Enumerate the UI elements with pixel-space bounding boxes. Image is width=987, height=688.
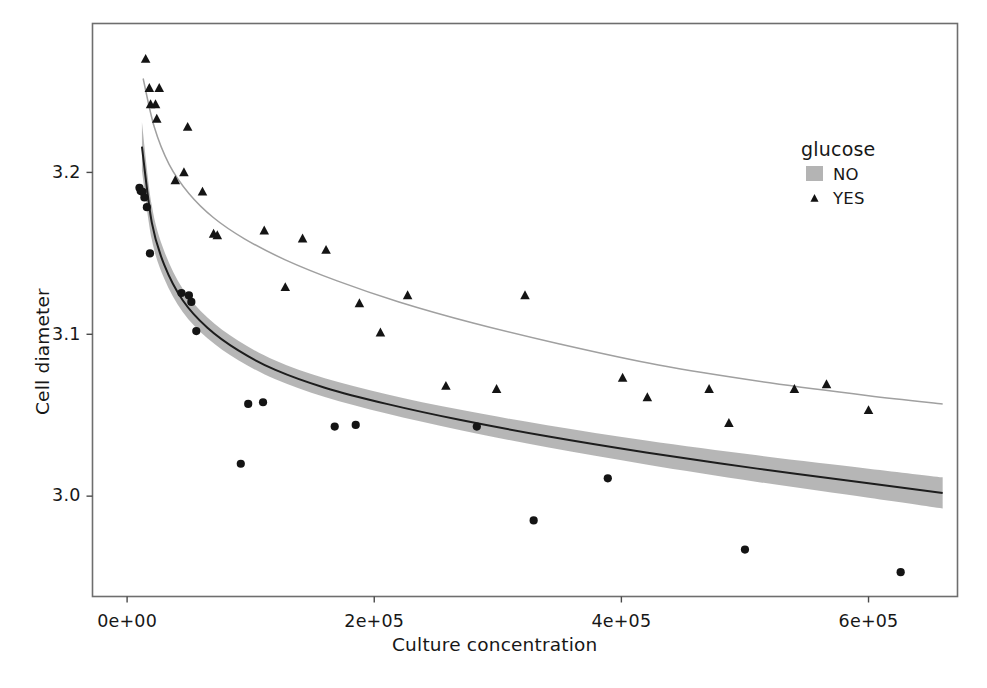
y-tick-label-3-0: 3.0 xyxy=(52,487,80,505)
data-point-no xyxy=(143,203,151,211)
data-point-no xyxy=(897,568,905,576)
figure-container: 0e+00 2e+05 4e+05 6e+05 3.2 3.1 3.0 Cult… xyxy=(0,0,987,688)
legend-title: glucose xyxy=(801,140,875,159)
data-point-no xyxy=(187,298,195,306)
y-axis-title: Cell diameter xyxy=(34,288,53,415)
legend-key-box-no xyxy=(806,166,823,181)
legend-item-label-no: NO xyxy=(833,167,859,184)
data-point-no xyxy=(259,398,267,406)
data-point-no xyxy=(237,460,245,468)
data-point-no xyxy=(604,474,612,482)
scatter-chart xyxy=(0,0,987,688)
x-axis-ticks xyxy=(127,597,868,603)
data-point-no xyxy=(331,422,339,430)
x-tick-label-0: 0e+00 xyxy=(97,613,157,631)
x-tick-label-2: 4e+05 xyxy=(591,613,651,631)
x-tick-label-1: 2e+05 xyxy=(344,613,404,631)
x-tick-label-3: 6e+05 xyxy=(839,613,899,631)
x-axis-title: Culture concentration xyxy=(392,636,598,655)
data-point-no xyxy=(473,422,481,430)
y-axis-ticks xyxy=(87,172,93,496)
data-point-no xyxy=(177,289,185,297)
data-point-no xyxy=(352,421,360,429)
data-point-no xyxy=(140,193,148,201)
data-point-no xyxy=(146,249,154,257)
y-tick-label-3-1: 3.1 xyxy=(52,326,80,344)
data-point-no xyxy=(741,545,749,553)
data-point-no xyxy=(244,400,252,408)
cut-off-caption xyxy=(0,676,987,688)
data-point-no xyxy=(192,327,200,335)
plot-frame xyxy=(93,24,958,597)
y-tick-label-3-2: 3.2 xyxy=(52,164,80,182)
data-point-no xyxy=(530,516,538,524)
legend-item-label-yes: YES xyxy=(833,191,865,208)
